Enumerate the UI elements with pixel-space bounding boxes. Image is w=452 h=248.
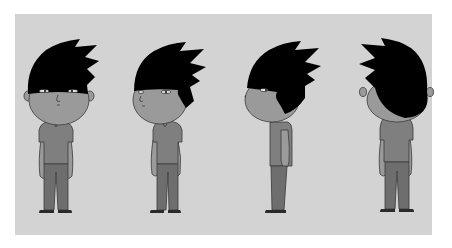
character-side-view [245,41,321,213]
character-front-view [24,39,99,213]
character-turnaround: .hair { fill: #000; } .skin { fill: #9a9… [0,0,452,248]
character-back-view [359,38,434,212]
character-three-quarter-view [133,42,206,213]
